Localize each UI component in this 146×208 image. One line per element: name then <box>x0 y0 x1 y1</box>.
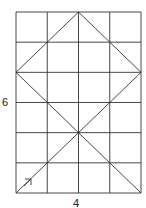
grid-lines <box>16 12 141 193</box>
height-label: 6 <box>2 96 8 108</box>
grid-diagram: 6 4 <box>0 0 146 208</box>
width-label: 4 <box>73 197 79 208</box>
direction-arrow-icon <box>24 179 31 186</box>
